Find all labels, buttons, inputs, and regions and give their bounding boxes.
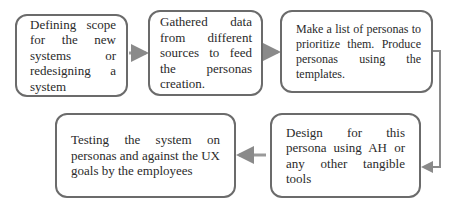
step-4-box: Design for this persona using AH or any …: [270, 113, 421, 198]
step-4-text: Design for this persona using AH or any …: [286, 125, 405, 187]
step-1-box: Defining scope for the new systems or re…: [15, 14, 128, 97]
step-2-text: Gathered data from different sources to …: [160, 14, 252, 92]
step-3-box: Make a list of personas to prioritize th…: [280, 10, 433, 93]
step-1-text: Defining scope for the new systems or re…: [30, 17, 116, 95]
step-5-box: Testing the system on personas and again…: [55, 113, 236, 198]
step-5-text: Testing the system on personas and again…: [71, 132, 220, 179]
step-3-text: Make a list of personas to prioritize th…: [296, 22, 421, 82]
step-2-box: Gathered data from different sources to …: [148, 10, 263, 96]
